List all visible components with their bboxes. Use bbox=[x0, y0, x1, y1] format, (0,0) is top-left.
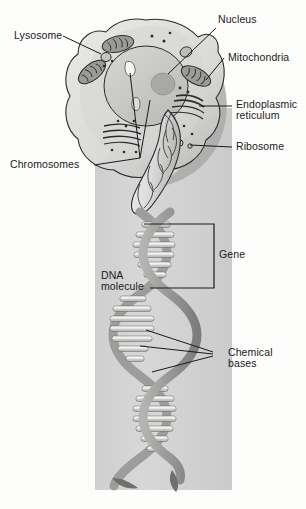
label-chromosomes: Chromosomes bbox=[10, 159, 79, 171]
lysosome bbox=[101, 53, 111, 62]
label-mitochondria: Mitochondria bbox=[228, 52, 289, 64]
nucleolus bbox=[151, 73, 175, 95]
label-lysosome: Lysosome bbox=[14, 30, 62, 42]
nucleus bbox=[104, 46, 188, 126]
label-dna-molecule-line2: molecule bbox=[101, 281, 144, 293]
label-chemical-bases-line2: bases bbox=[228, 358, 257, 370]
cell-dna-diagram: Lysosome Nucleus Mitochondria Endoplasmi… bbox=[0, 0, 306, 509]
label-gene: Gene bbox=[219, 249, 245, 261]
label-ribosome: Ribosome bbox=[236, 141, 284, 153]
cell-illustration bbox=[66, 19, 227, 188]
label-endoplasmic-reticulum-line2: reticulum bbox=[236, 110, 280, 122]
label-nucleus: Nucleus bbox=[218, 14, 257, 26]
diagram-canvas bbox=[0, 0, 306, 509]
